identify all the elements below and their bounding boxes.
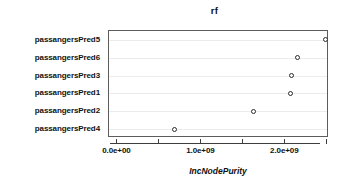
- gridline: [109, 76, 327, 77]
- x-axis-tick-label: 1.0e+09: [186, 146, 214, 155]
- x-axis-line: [110, 143, 320, 144]
- x-axis-tick: [326, 139, 327, 144]
- x-axis-tick: [116, 139, 117, 144]
- y-axis-label: passangersPred6: [35, 52, 100, 61]
- x-axis-tick: [158, 139, 159, 144]
- data-point: [289, 73, 294, 78]
- y-axis-label: passangersPred5: [35, 34, 100, 43]
- plot-area: [108, 30, 328, 137]
- x-axis-tick: [242, 139, 243, 144]
- page-title: rf: [0, 5, 349, 16]
- x-axis-tick: [200, 139, 201, 144]
- y-axis-label: passangersPred1: [35, 88, 100, 97]
- gridline: [109, 40, 327, 41]
- x-axis-tick-label: 0.0e+00: [102, 146, 130, 155]
- data-point: [288, 91, 293, 96]
- data-point: [251, 109, 256, 114]
- x-axis-tick-label: 2.0e+09: [270, 146, 298, 155]
- x-axis-tick: [284, 139, 285, 144]
- x-axis: 0.0e+001.0e+092.0e+09: [108, 137, 328, 167]
- variable-importance-plot: rf passangersPred5passangersPred6passang…: [0, 0, 349, 188]
- gridline: [109, 129, 327, 130]
- x-axis-title: IncNodePurity: [108, 166, 328, 176]
- y-axis-label: passangersPred3: [35, 70, 100, 79]
- data-point: [295, 55, 300, 60]
- chart-title-text: rf: [211, 5, 218, 16]
- gridline: [109, 111, 327, 112]
- y-axis-label: passangersPred2: [35, 106, 100, 115]
- y-axis-label: passangersPred4: [35, 124, 100, 133]
- data-point: [172, 127, 177, 132]
- gridline: [109, 93, 327, 94]
- data-point: [323, 37, 328, 42]
- y-axis-category-labels: passangersPred5passangersPred6passangers…: [0, 30, 104, 137]
